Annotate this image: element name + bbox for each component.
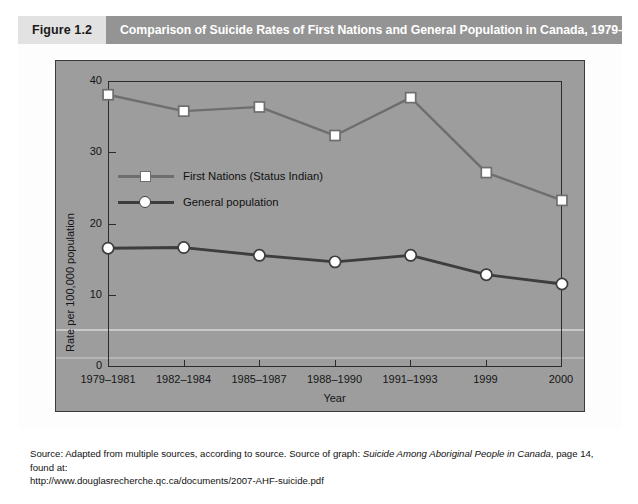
data-point-marker — [179, 106, 189, 116]
source-prefix: Source: Adapted from multiple sources, a… — [30, 448, 363, 459]
data-point-marker — [102, 243, 113, 254]
data-point-marker — [254, 102, 264, 112]
chart-plot-area: 010203040Rate per 100,000 population1979… — [55, 60, 585, 412]
data-point-marker — [481, 168, 491, 178]
data-point-marker — [406, 93, 416, 103]
figure-title: Comparison of Suicide Rates of First Nat… — [106, 16, 622, 44]
chart-canvas: 010203040Rate per 100,000 population1979… — [56, 61, 584, 411]
legend-label-general-population: General population — [183, 196, 278, 208]
legend-swatch-circle-icon — [118, 195, 174, 209]
data-point-marker — [178, 242, 189, 253]
chart-legend: First Nations (Status Indian) General po… — [118, 166, 323, 218]
figure-panel: 010203040Rate per 100,000 population1979… — [18, 44, 622, 428]
data-point-marker — [330, 131, 340, 141]
legend-label-first-nations: First Nations (Status Indian) — [183, 170, 323, 182]
legend-item-first-nations: First Nations (Status Indian) — [118, 166, 323, 186]
data-point-marker — [254, 250, 265, 261]
figure-page: { "figure": { "number_label": "Figure 1.… — [0, 0, 638, 504]
data-point-marker — [405, 250, 416, 261]
data-point-marker — [481, 269, 492, 280]
data-point-marker — [556, 278, 567, 289]
source-url: http://www.douglasrecherche.qc.ca/docume… — [30, 474, 610, 488]
source-note: Source: Adapted from multiple sources, a… — [30, 447, 610, 488]
data-point-marker — [557, 195, 567, 205]
data-point-marker — [329, 256, 340, 267]
legend-item-general-population: General population — [118, 192, 323, 212]
legend-swatch-square-icon — [118, 169, 174, 183]
source-italic-title: Suicide Among Aboriginal People in Canad… — [363, 448, 551, 459]
chart-series-layer — [56, 61, 584, 411]
figure-header: Figure 1.2 Comparison of Suicide Rates o… — [18, 16, 622, 44]
figure-number: Figure 1.2 — [18, 16, 106, 44]
data-point-marker — [103, 90, 113, 100]
series-general-population — [102, 242, 567, 290]
